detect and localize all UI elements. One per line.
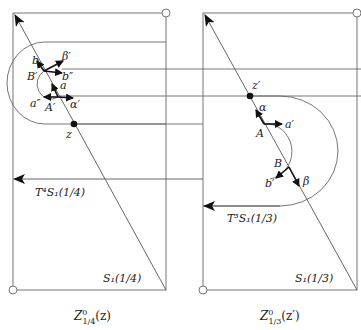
corner-circle [162,9,170,17]
label-alpha-prime: α′ [70,98,80,111]
outer-arc [7,42,166,124]
label-beta: β [302,175,309,188]
label-a-prime: a′ [285,118,295,131]
label-alpha: α [259,101,267,114]
label-t3s1: T³S₁(1/3) [227,212,277,225]
right-panel [199,9,361,294]
caption-left: Z01/4(z) [73,308,111,326]
label-A: A [255,127,264,140]
label-beta-prime: β′ [61,50,71,63]
label-b-prime: b′ [265,177,275,190]
point-z-prime [247,93,254,100]
label-z-prime: z′ [251,79,261,92]
corner-circle [353,9,361,17]
corner-circle [199,286,207,294]
inner-arc [264,124,292,179]
corner-circle [9,286,17,294]
caption-right: Z01/3(z′) [259,308,300,326]
label-b: b [32,54,39,67]
left-panel [7,9,361,294]
label-A-prime: A′ [44,101,56,114]
label-s1-right: S₁(1/3) [295,272,333,285]
diagram: b β′ B′ b″ a a″ A′ α′ z T⁴S₁(1/4) S₁(1/4… [0,0,361,330]
label-a: a [60,79,67,92]
label-t4s1: T⁴S₁(1/4) [35,186,85,199]
label-s1-left: S₁(1/4) [103,272,141,285]
label-z: z [65,128,72,141]
label-B: B [273,157,282,170]
point-z [71,121,78,128]
label-B-prime: B′ [26,70,38,83]
diagonal-arrow [205,15,357,290]
label-a-double-prime: a″ [30,97,42,110]
